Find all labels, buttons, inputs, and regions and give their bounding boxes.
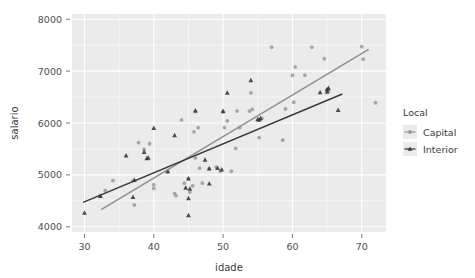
legend-label-capital[interactable]: Capital <box>423 127 456 138</box>
data-point-capital <box>180 118 184 122</box>
data-point-capital <box>192 130 196 134</box>
data-point-capital <box>132 203 136 207</box>
data-point-capital <box>182 181 186 185</box>
x-tick-label: 40 <box>148 241 160 252</box>
y-axis-title: salario <box>9 106 20 139</box>
y-tick-label: 4000 <box>38 221 62 232</box>
y-tick-label: 7000 <box>38 66 62 77</box>
data-point-capital <box>291 73 295 77</box>
legend: LocalCapitalInterior <box>403 107 458 156</box>
data-point-capital <box>293 65 297 69</box>
data-point-capital <box>196 126 200 130</box>
x-axis-title: idade <box>215 262 243 273</box>
data-point-capital <box>230 169 234 173</box>
data-point-capital <box>361 57 365 61</box>
x-tick-label: 70 <box>356 241 368 252</box>
data-point-capital <box>374 101 378 105</box>
data-point-capital <box>152 187 156 191</box>
data-point-capital <box>148 142 152 146</box>
legend-label-interior[interactable]: Interior <box>423 144 458 155</box>
x-tick-label: 50 <box>217 241 229 252</box>
data-point-capital <box>284 107 288 111</box>
data-point-capital <box>322 57 326 61</box>
data-point-capital <box>200 181 204 185</box>
data-point-capital <box>234 147 238 151</box>
data-point-capital <box>174 194 178 198</box>
data-point-capital <box>137 141 141 145</box>
y-tick-label: 8000 <box>38 14 62 25</box>
data-point-capital <box>303 73 307 77</box>
data-point-capital <box>235 109 239 113</box>
x-tick-label: 30 <box>78 241 90 252</box>
data-point-capital <box>223 126 227 130</box>
x-tick-label: 60 <box>286 241 298 252</box>
data-point-capital <box>270 45 274 49</box>
data-point-capital <box>225 119 229 123</box>
y-tick-label: 6000 <box>38 118 62 129</box>
data-point-capital <box>198 166 202 170</box>
data-point-capital <box>360 45 364 49</box>
data-point-capital <box>281 138 285 142</box>
plot-canvas: 304050607040005000600070008000idadesalar… <box>0 0 475 278</box>
data-point-capital <box>250 108 254 112</box>
data-point-capital <box>152 183 156 187</box>
data-point-capital <box>292 100 296 104</box>
data-point-capital <box>111 179 115 183</box>
y-tick-label: 5000 <box>38 169 62 180</box>
data-point-capital <box>310 45 314 49</box>
data-point-capital <box>249 91 253 95</box>
legend-key-marker-circle <box>408 130 412 134</box>
scatter-plot-figure: 304050607040005000600070008000idadesalar… <box>0 0 475 278</box>
legend-title: Local <box>403 107 428 118</box>
data-point-capital <box>191 184 195 188</box>
data-point-capital <box>257 136 261 140</box>
